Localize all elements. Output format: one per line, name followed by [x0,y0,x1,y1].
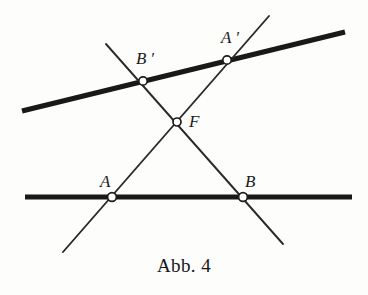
transversal-b-prime-to-b [106,44,283,244]
figure-container: B ′A ′FAB Abb. 4 [0,0,368,295]
transversal-a-prime-to-a [63,16,269,252]
point-a [108,193,117,202]
label-b: B [245,173,256,190]
figure-caption: Abb. 4 [0,255,368,277]
label-a-prime: A ′ [221,29,239,46]
label-b-prime: B ′ [136,50,154,67]
point-f [173,118,181,126]
point-b [239,193,248,202]
point-b-prime [139,77,147,85]
geometry-diagram [0,0,368,295]
upper-thick-line [22,32,345,111]
label-f: F [189,113,200,130]
lines-group [22,16,352,252]
point-a-prime [223,56,231,64]
label-a: A [100,173,111,190]
